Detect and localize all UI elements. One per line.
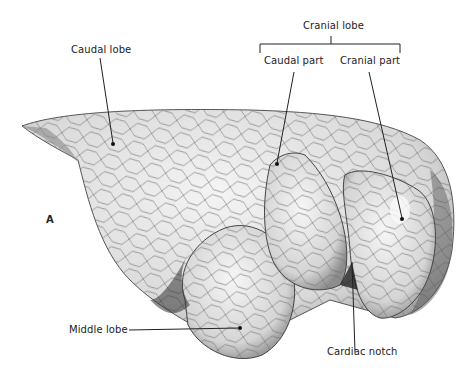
- cardiac-notch-label: Cardiac notch: [327, 346, 398, 357]
- cranial-lobe-label: Cranial lobe: [303, 20, 364, 31]
- panel-letter-label: A: [46, 214, 54, 225]
- caudal-part-label: Caudal part: [264, 55, 324, 66]
- caudal-lobe-label: Caudal lobe: [71, 44, 131, 55]
- cranial-part-label: Cranial part: [340, 55, 400, 66]
- lung-illustration: [0, 0, 476, 371]
- middle-lobe-label: Middle lobe: [69, 324, 128, 335]
